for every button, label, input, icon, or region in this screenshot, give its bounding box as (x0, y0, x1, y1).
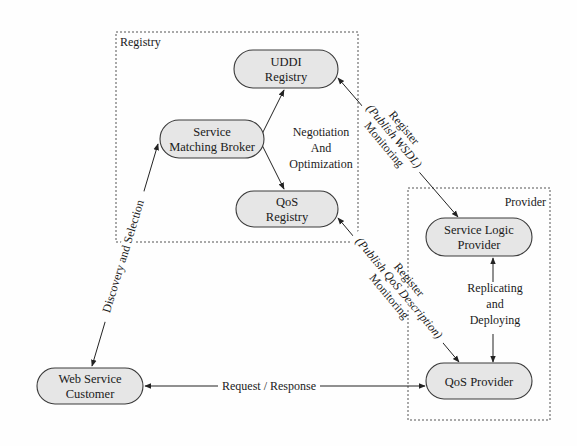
node-label: Registry (265, 70, 308, 84)
node-label: UDDI (270, 55, 301, 69)
replicating-line-1: Replicating (467, 281, 522, 295)
replicating-label: Replicating and Deploying (467, 281, 522, 327)
node-label: Web Service (58, 372, 122, 386)
node-broker: ServiceMatching Broker (160, 120, 264, 158)
discovery-label: Discovery and Selection (97, 189, 150, 323)
node-customer: Web ServiceCustomer (37, 368, 143, 404)
request-response-label: Request / Response (222, 379, 316, 393)
node-label: QoS Provider (445, 375, 514, 389)
nodes: UDDIRegistryServiceMatching BrokerQoSReg… (37, 50, 532, 404)
node-qos-provider: QoS Provider (426, 363, 532, 399)
replicating-line-3: Deploying (470, 313, 521, 327)
edge-broker-uddi (262, 90, 284, 134)
register-uddi-label: Register (Publish WSDL) Monitoring (351, 90, 438, 183)
edge-broker-qos-registry (262, 145, 284, 189)
node-service-logic: Service LogicProvider (426, 218, 532, 256)
node-label: QoS (276, 195, 298, 209)
node-label: Service Logic (444, 223, 514, 237)
node-uddi: UDDIRegistry (234, 50, 338, 88)
negotiation-line-3: Optimization (289, 157, 352, 171)
soa-qos-diagram: Registry Provider UDDIRegistryServiceMat… (0, 0, 577, 446)
node-label: Matching Broker (169, 140, 256, 154)
node-label: Customer (66, 387, 115, 401)
negotiation-line-2: And (311, 141, 332, 155)
registry-group-label: Registry (120, 35, 161, 49)
node-label: Service (193, 125, 231, 139)
provider-group-label: Provider (505, 195, 546, 209)
negotiation-line-1: Negotiation (293, 125, 350, 139)
replicating-line-2: and (486, 297, 503, 311)
discovery-text: Discovery and Selection (99, 198, 147, 314)
node-qos-registry: QoSRegistry (236, 191, 338, 227)
negotiation-label: Negotiation And Optimization (289, 125, 352, 171)
node-label: Provider (457, 238, 501, 252)
node-label: Registry (266, 210, 309, 224)
